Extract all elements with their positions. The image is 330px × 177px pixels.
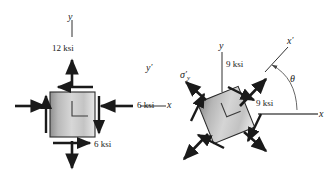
yprime-axis-label: y′ xyxy=(146,63,152,73)
right-arrow-yprime-neg xyxy=(244,132,266,151)
left-bottom-stress-label: 6 ksi xyxy=(94,140,111,149)
right-element-group xyxy=(184,47,318,159)
left-element-group xyxy=(15,20,166,168)
left-right-stress-label: 6 ksi xyxy=(137,101,154,110)
theta-arc xyxy=(272,65,297,110)
sigma-y-prime-label: σ′y xyxy=(180,70,190,82)
right-lower-stress-label: 9 ksi xyxy=(256,99,273,108)
sigma-subscript: y xyxy=(187,74,190,82)
yprime-axis-mark: ′ xyxy=(150,62,152,72)
left-y-axis-label: y xyxy=(68,12,72,22)
right-x-axis-label: x xyxy=(319,109,323,119)
xprime-axis-label: x′ xyxy=(287,36,293,46)
stress-figure: y 12 ksi 6 ksi x 6 ksi y′ σ′y y 9 ksi x′… xyxy=(0,0,330,177)
left-top-stress-label: 12 ksi xyxy=(52,44,74,53)
xprime-axis-mark: ′ xyxy=(291,35,293,45)
right-upper-stress-label: 9 ksi xyxy=(226,60,243,69)
theta-label: θ xyxy=(290,74,295,84)
right-y-axis-label: y xyxy=(219,41,223,51)
left-x-axis-label: x xyxy=(167,100,171,110)
figure-canvas xyxy=(0,0,330,177)
